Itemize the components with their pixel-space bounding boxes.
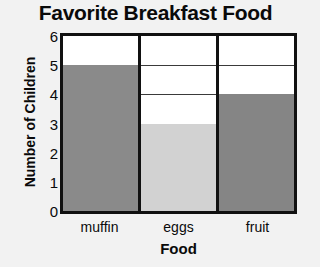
y-axis-tick-label: 1 xyxy=(36,174,58,189)
x-axis-tick-label: fruit xyxy=(218,219,297,239)
y-axis-tick-label: 0 xyxy=(36,204,58,219)
x-axis-tick-label: muffin xyxy=(60,219,139,239)
y-axis-tick-label: 5 xyxy=(36,58,58,73)
bar-column xyxy=(138,36,216,211)
y-axis-tick-label: 3 xyxy=(36,116,58,131)
bar-muffin xyxy=(63,65,138,211)
bar-column xyxy=(216,36,294,211)
bar-eggs xyxy=(141,124,216,212)
bar-column xyxy=(63,36,138,211)
y-axis-tick-label: 4 xyxy=(36,87,58,102)
y-axis-tick-label: 6 xyxy=(36,29,58,44)
x-axis-tick-labels: muffineggsfruit xyxy=(60,219,297,239)
x-axis-title: Food xyxy=(60,240,297,257)
bar-fruit xyxy=(219,94,294,211)
plot-area xyxy=(60,33,297,214)
bar-columns xyxy=(63,36,294,211)
y-axis-tick-label: 2 xyxy=(36,145,58,160)
y-axis-tick-labels: 0123456 xyxy=(36,0,58,267)
plot-inner xyxy=(63,36,294,211)
x-axis-tick-label: eggs xyxy=(139,219,218,239)
